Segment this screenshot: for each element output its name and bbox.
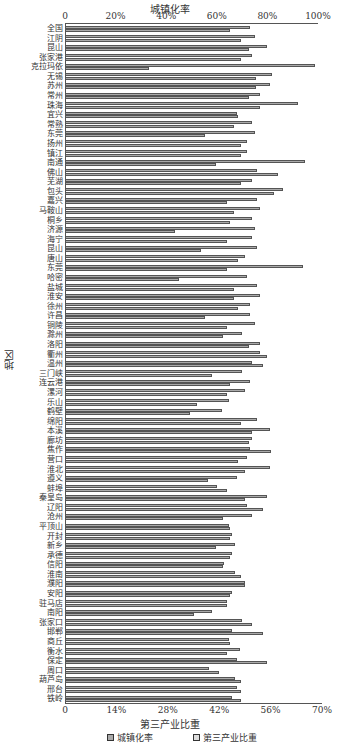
category-label: 江阴 — [47, 35, 63, 43]
category-label: 葫芦岛 — [39, 676, 63, 684]
category-label: 保定 — [47, 657, 63, 665]
legend-item-urbanization: 城镇化率 — [107, 731, 153, 744]
bar-tertiary — [65, 671, 219, 674]
category-label: 辽阳 — [47, 504, 63, 512]
bar-tertiary — [65, 211, 234, 214]
bottom-axis-line — [65, 703, 322, 704]
top-tick-label: 0 — [62, 11, 68, 21]
category-label: 南通 — [47, 159, 63, 167]
bottom-tick-label: 70% — [312, 705, 332, 715]
top-axis-line — [65, 23, 318, 24]
category-label: 宜兴 — [47, 111, 63, 119]
top-tick-label: 100% — [305, 11, 331, 21]
bar-tertiary — [65, 48, 249, 51]
category-label: 苏州 — [47, 82, 63, 90]
category-label: 嘉兴 — [47, 197, 63, 205]
bar-tertiary — [65, 201, 227, 204]
category-label: 承德 — [47, 552, 63, 560]
bottom-tick-label: 42% — [209, 705, 229, 715]
category-label: 滁州 — [47, 331, 63, 339]
category-label: 连云港 — [39, 379, 63, 387]
bar-tertiary — [65, 230, 175, 233]
category-label: 东莞 — [47, 130, 63, 138]
bar-tertiary — [65, 699, 241, 702]
category-label: 唐山 — [47, 255, 63, 263]
category-label: 商丘 — [47, 638, 63, 646]
bar-tertiary — [65, 479, 208, 482]
bar-tertiary — [65, 470, 245, 473]
category-label: 洛阳 — [47, 341, 63, 349]
bar-tertiary — [65, 546, 216, 549]
bar-tertiary — [65, 67, 149, 70]
bar-tertiary — [65, 556, 230, 559]
top-tick-label: 40% — [156, 11, 176, 21]
bar-tertiary — [65, 29, 230, 32]
category-label: 镇江 — [47, 150, 63, 158]
bottom-tick-label: 0 — [62, 705, 68, 715]
legend-swatch — [107, 734, 114, 741]
bar-tertiary — [65, 58, 241, 61]
bottom-tick-label: 14% — [106, 705, 126, 715]
category-label: 温州 — [47, 360, 63, 368]
category-label: 衡水 — [47, 648, 63, 656]
bar-tertiary — [65, 355, 267, 358]
category-label: 徐州 — [47, 303, 63, 311]
category-label: 盐城 — [47, 284, 63, 292]
bar-tertiary — [65, 326, 227, 329]
bar-tertiary — [65, 508, 263, 511]
category-label: 沧州 — [47, 513, 63, 521]
category-label: 平顶山 — [39, 523, 63, 531]
legend-item-tertiary: 第三产业比重 — [193, 731, 257, 744]
bar-tertiary — [65, 517, 223, 520]
category-label: 驻马店 — [39, 600, 63, 608]
category-label: 佛山 — [47, 169, 63, 177]
bar-tertiary — [65, 221, 230, 224]
category-label: 铜陵 — [47, 322, 63, 330]
bar-tertiary — [65, 182, 241, 185]
bar-tertiary — [65, 259, 238, 262]
category-label: 许昌 — [47, 312, 63, 320]
category-label: 昆山 — [47, 44, 63, 52]
bar-tertiary — [65, 297, 234, 300]
legend-swatch — [193, 734, 200, 741]
category-label: 濮阳 — [47, 580, 63, 588]
bar-tertiary — [65, 613, 194, 616]
category-label: 焦作 — [47, 446, 63, 454]
bar-tertiary — [65, 96, 249, 99]
category-label: 安阳 — [47, 590, 63, 598]
category-label: 南阳 — [47, 609, 63, 617]
bottom-tick-label: 28% — [158, 705, 178, 715]
bar-tertiary — [65, 316, 205, 319]
category-label: 周口 — [47, 667, 63, 675]
category-label: 三门峡 — [39, 370, 63, 378]
bar-tertiary — [65, 240, 227, 243]
category-label: 开封 — [47, 533, 63, 541]
category-label: 廊坊 — [47, 437, 63, 445]
category-label: 哈密 — [47, 274, 63, 282]
category-label: 乐山 — [47, 399, 63, 407]
bar-tertiary — [65, 594, 230, 597]
category-label: 张家港 — [39, 54, 63, 62]
bar-tertiary — [65, 173, 278, 176]
bar-tertiary — [65, 604, 227, 607]
bar-tertiary — [65, 498, 245, 501]
category-label: 珠海 — [47, 102, 63, 110]
bar-tertiary — [65, 364, 263, 367]
category-label: 蚌埠 — [47, 485, 63, 493]
bar-tertiary — [65, 115, 238, 118]
category-label: 漯河 — [47, 389, 63, 397]
category-label: 淮南 — [47, 571, 63, 579]
category-label: 绵阳 — [47, 418, 63, 426]
category-label: 无锡 — [47, 73, 63, 81]
bar-tertiary — [65, 632, 263, 635]
bar-tertiary — [65, 680, 241, 683]
bar-tertiary — [65, 106, 260, 109]
bar-tertiary — [65, 278, 179, 281]
bar-tertiary — [65, 422, 241, 425]
category-label: 海宁 — [47, 236, 63, 244]
category-label: 邢台 — [47, 686, 63, 694]
bar-tertiary — [65, 374, 212, 377]
top-tick-label: 20% — [106, 11, 126, 21]
category-label: 芜湖 — [47, 178, 63, 186]
bar-tertiary — [65, 652, 227, 655]
